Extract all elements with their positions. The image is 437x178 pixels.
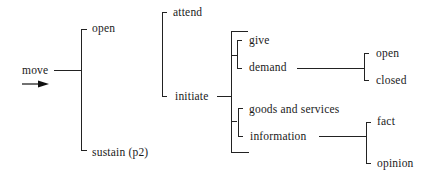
bracket-tick: [231, 152, 249, 153]
bracket-move: [81, 29, 82, 151]
connector-information: [319, 136, 366, 137]
node-open: open: [92, 22, 115, 34]
system-network-diagram: move open sustain (p2) attend initiate g…: [0, 0, 437, 178]
bracket-tick: [237, 68, 242, 69]
node-demand: demand: [249, 61, 287, 73]
bracket-tick: [366, 122, 371, 123]
bracket-tick: [238, 108, 243, 109]
connector-initiate: [217, 96, 231, 97]
bracket-tick: [81, 29, 87, 30]
bracket-speech-role: [237, 40, 238, 69]
bracket-open: [162, 12, 163, 97]
bracket-tick: [238, 136, 243, 137]
bracket-tick: [231, 121, 237, 122]
bracket-demand: [364, 53, 365, 81]
connector-demand: [297, 68, 364, 69]
bracket-commodity: [238, 108, 239, 137]
node-give: give: [249, 34, 270, 46]
bracket-tick: [364, 53, 369, 54]
bracket-tick: [231, 31, 248, 32]
bracket-tick: [162, 96, 167, 97]
node-goods-and-services: goods and services: [249, 103, 339, 115]
bracket-tick: [366, 163, 371, 164]
node-demand-open: open: [376, 47, 399, 59]
node-fact: fact: [377, 115, 395, 127]
bracket-information: [366, 122, 367, 164]
bracket-tick: [237, 40, 242, 41]
node-initiate: initiate: [175, 90, 209, 102]
bracket-tick: [364, 80, 369, 81]
entry-arrow-icon: [0, 0, 60, 100]
node-information: information: [250, 130, 307, 142]
node-opinion: opinion: [377, 157, 414, 169]
bracket-tick: [162, 12, 167, 13]
node-attend: attend: [173, 6, 202, 18]
node-sustain: sustain (p2): [92, 146, 148, 158]
bracket-tick: [81, 150, 87, 151]
node-demand-closed: closed: [376, 74, 407, 86]
bracket-initiate: [231, 31, 232, 153]
